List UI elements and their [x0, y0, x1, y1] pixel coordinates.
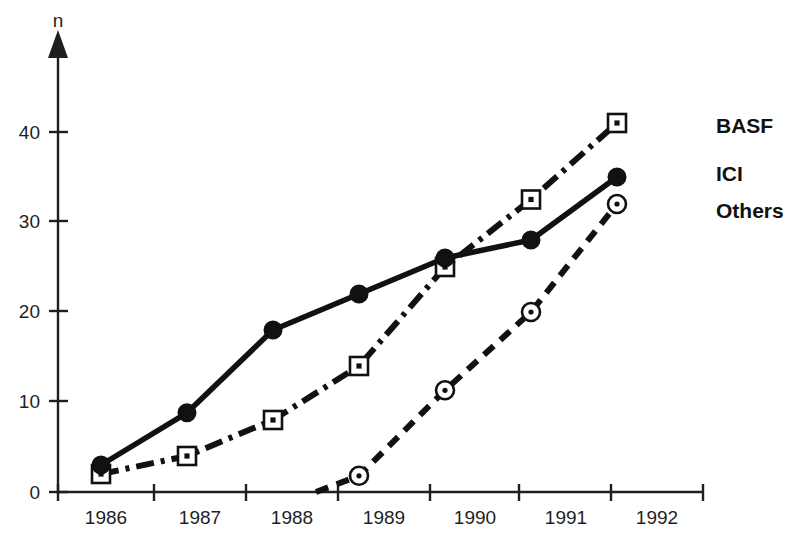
- data-point-ici-5: [523, 232, 540, 249]
- x-axis: 1986 1987 1988 1989 1990 1991 1992: [58, 484, 703, 528]
- series-ici: [93, 169, 626, 474]
- y-axis: n 40 30 20 10 0: [19, 10, 68, 503]
- data-point-basf-1: [178, 447, 196, 465]
- data-point-ici-3: [351, 286, 368, 303]
- series-line-ici: [101, 177, 617, 465]
- data-point-basf-5: [522, 191, 540, 209]
- data-point-ici-0: [93, 457, 110, 474]
- data-point-others-1: [350, 467, 368, 485]
- x-tick-label-1990: 1990: [454, 507, 496, 528]
- data-point-others-4: [608, 195, 626, 213]
- series-others: [316, 195, 626, 492]
- legend-label-ici: ICI: [716, 162, 743, 185]
- line-chart: n 40 30 20 10 0 1986 1987: [0, 0, 803, 554]
- y-tick-label-10: 10: [19, 391, 40, 412]
- x-tick-label-1992: 1992: [636, 507, 678, 528]
- y-tick-label-40: 40: [19, 122, 40, 143]
- data-point-ici-4: [437, 250, 454, 267]
- x-tick-label-1987: 1987: [179, 507, 221, 528]
- data-point-basf-3: [350, 357, 368, 375]
- x-tick-label-1988: 1988: [271, 507, 313, 528]
- data-point-others-2: [436, 381, 454, 399]
- plot-series-layer: [92, 114, 626, 492]
- data-point-ici-6: [609, 169, 626, 186]
- x-tick-label-1986: 1986: [85, 507, 127, 528]
- y-tick-label-30: 30: [19, 211, 40, 232]
- y-axis-name: n: [53, 10, 64, 31]
- y-axis-arrow-icon: [48, 30, 68, 58]
- y-tick-label-20: 20: [19, 301, 40, 322]
- legend-label-basf: BASF: [716, 114, 773, 137]
- legend-label-others: Others: [716, 199, 784, 222]
- data-point-ici-1: [179, 404, 196, 421]
- y-tick-label-0: 0: [29, 482, 40, 503]
- x-tick-label-1989: 1989: [363, 507, 405, 528]
- data-point-basf-6: [608, 114, 626, 132]
- data-point-ici-2: [265, 322, 282, 339]
- x-tick-label-1991: 1991: [545, 507, 587, 528]
- data-point-others-3: [522, 303, 540, 321]
- legend: BASF ICI Others: [716, 114, 784, 222]
- data-point-basf-2: [264, 411, 282, 429]
- chart-canvas: n 40 30 20 10 0 1986 1987: [0, 0, 803, 554]
